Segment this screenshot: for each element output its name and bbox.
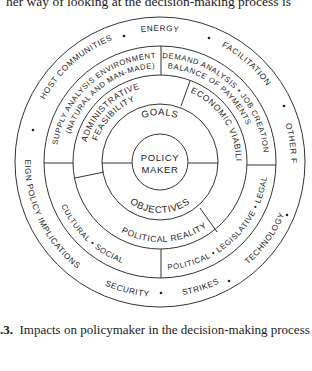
political-reality-label: POLITICAL REALITY [120,220,208,244]
energy-label: ENERGY [140,24,180,34]
divider-third-upper-right [181,81,190,106]
bullet-dot [160,292,163,295]
bullet-dot [123,35,126,38]
figure-caption: .3. Impacts on policymaker in the decisi… [0,322,311,338]
foreign-policy-label: FOREIGN POLICY IMPLICATIONS [0,0,82,271]
center-label-line2: MAKER [142,164,179,175]
strikes-label: STRIKES [181,277,220,297]
goals-label: GOALS [140,106,180,120]
bullet-dot [286,214,289,217]
bullet-dot [283,105,286,108]
policymaker-impacts-diagram: POLICY MAKER GOALS OBJECTIVES ADMINISTRA… [0,0,311,320]
figure-number: .3. [0,322,13,337]
objectives-label: OBJECTIVES [128,195,191,215]
bullet-dot [32,129,35,132]
figure-caption-text: Impacts on policymaker in the decision-m… [20,322,312,337]
center-label-line1: POLICY [141,152,180,163]
security-label: SECURITY [104,279,150,299]
divider-third-left [75,172,104,178]
bullet-dot [208,37,211,40]
bullet-dot [228,280,231,283]
